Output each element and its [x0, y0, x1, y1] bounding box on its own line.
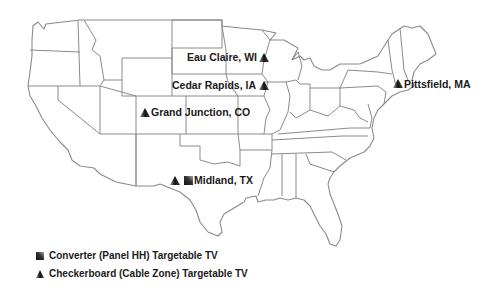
city-label-eau-claire: Eau Claire, WI: [187, 51, 257, 63]
legend-converter-label: Converter (Panel HH) Targetable TV: [49, 250, 218, 261]
city-label-pittsfield: Pittsfield, MA: [404, 78, 471, 90]
legend-checkerboard-label: Checkerboard (Cable Zone) Targetable TV: [49, 268, 248, 279]
city-label-grand-junction: Grand Junction, CO: [151, 106, 250, 118]
city-label-cedar-rapids: Cedar Rapids, IA: [172, 79, 256, 91]
legend-checkerboard-icon: [36, 270, 44, 278]
legend-item-converter: Converter (Panel HH) Targetable TV: [49, 250, 218, 261]
converter-marker-midland: [184, 176, 193, 185]
city-label-midland: Midland, TX: [194, 174, 253, 186]
us-map: [0, 0, 484, 290]
legend-converter-icon: [36, 252, 44, 260]
legend-item-checkerboard: Checkerboard (Cable Zone) Targetable TV: [49, 268, 248, 279]
